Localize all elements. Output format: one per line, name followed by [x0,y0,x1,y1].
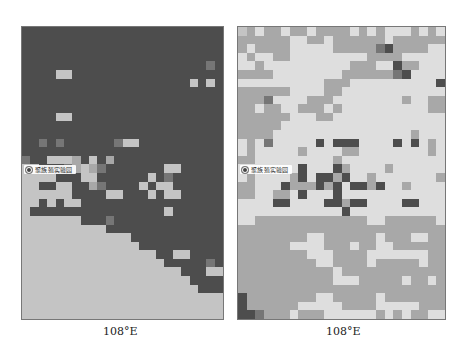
raster-cell [123,207,131,216]
raster-cell [436,250,445,259]
raster-cell [307,302,316,311]
raster-cell [290,225,299,234]
raster-cell [419,216,428,225]
raster-cell [411,87,420,96]
x-tick-label-left: 108°E [103,325,138,338]
raster-cell [273,302,282,311]
raster-cell [264,225,273,234]
raster-cell [81,276,89,285]
raster-cell [428,96,437,105]
raster-cell [307,156,316,165]
raster-cell [411,70,420,79]
raster-cell [97,233,105,242]
raster-cell [419,276,428,285]
raster-cell [324,207,333,216]
raster-cell [64,250,72,259]
raster-cell [342,27,351,36]
raster-cell [81,53,89,62]
raster-cell [419,121,428,130]
raster-cell [30,242,38,251]
raster-cell [324,130,333,139]
raster-cell [56,207,64,216]
raster-cell [264,27,273,36]
raster-cell [156,44,164,53]
raster-cell [22,121,30,130]
raster-cell [298,225,307,234]
raster-cell [264,61,273,70]
raster-cell [385,259,394,268]
raster-cell [198,147,206,156]
raster-cell [419,285,428,294]
raster-cell [385,87,394,96]
raster-cell [22,233,30,242]
raster-cell [139,233,147,242]
raster-cell [316,225,325,234]
raster-cell [198,164,206,173]
raster-cell [402,310,411,319]
raster-cell [290,267,299,276]
raster-cell [385,70,394,79]
raster-cell [273,61,282,70]
raster-cell [247,182,256,191]
raster-cell [307,164,316,173]
raster-cell [281,121,290,130]
raster-cell [316,70,325,79]
raster-cell [238,310,247,319]
raster-cell [333,285,342,294]
raster-cell [255,139,264,148]
raster-cell [173,207,181,216]
raster-cell [148,121,156,130]
raster-cell [342,113,351,122]
raster-cell [281,44,290,53]
raster-cell [139,104,147,113]
raster-cell [30,267,38,276]
raster-cell [385,285,394,294]
raster-cell [72,104,80,113]
raster-cell [255,276,264,285]
raster-cell [238,302,247,311]
raster-cell [206,130,214,139]
raster-cell [148,242,156,251]
raster-cell [281,233,290,242]
raster-cell [97,156,105,165]
raster-cell [264,199,273,208]
raster-cell [156,173,164,182]
raster-cell [316,139,325,148]
raster-cell [316,233,325,242]
raster-cell [56,293,64,302]
raster-cell [350,156,359,165]
raster-cell [428,199,437,208]
raster-cell [139,250,147,259]
raster-cell [255,87,264,96]
raster-cell [281,302,290,311]
raster-cell [273,216,282,225]
raster-cell [350,207,359,216]
raster-cell [215,147,223,156]
raster-cell [367,130,376,139]
raster-cell [402,207,411,216]
raster-cell [206,285,214,294]
raster-cell [114,267,122,276]
raster-cell [342,36,351,45]
raster-cell [72,276,80,285]
raster-cell [190,121,198,130]
raster-cell [72,182,80,191]
raster-cell [350,242,359,251]
raster-cell [22,293,30,302]
raster-cell [64,173,72,182]
raster-cell [367,276,376,285]
raster-cell [47,27,55,36]
raster-cell [350,147,359,156]
raster-cell [190,130,198,139]
raster-cell [333,156,342,165]
raster-cell [131,190,139,199]
raster-cell [367,104,376,113]
raster-cell [139,207,147,216]
raster-cell [22,225,30,234]
raster-cell [419,164,428,173]
raster-cell [139,164,147,173]
raster-cell [393,87,402,96]
raster-cell [139,44,147,53]
raster-cell [156,302,164,311]
raster-cell [350,27,359,36]
